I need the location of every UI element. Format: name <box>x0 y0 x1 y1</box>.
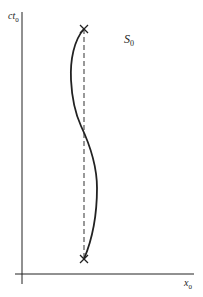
ct-axis-label: ct0 <box>8 10 19 24</box>
x-axis-label: x0 <box>183 277 192 291</box>
spacetime-diagram: ct0 S0 x0 <box>0 0 203 297</box>
frame-label: S0 <box>124 32 134 48</box>
